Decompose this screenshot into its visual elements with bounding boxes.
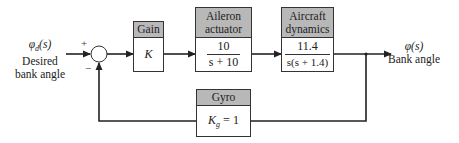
aileron-actuator-header: Aileron actuator — [196, 8, 251, 38]
aircraft-dynamics-body: 11.4 s(s + 1.4) — [282, 38, 333, 71]
gyro-value: Kg = 1 — [208, 113, 239, 129]
output-label: φ(s) Bank angle — [382, 40, 446, 66]
aileron-actuator-block: Aileron actuator 10 s + 10 — [195, 7, 252, 72]
aileron-actuator-body: 10 s + 10 — [196, 38, 251, 71]
aircraft-dynamics-block: Aircraft dynamics 11.4 s(s + 1.4) — [281, 7, 334, 72]
gyro-block-body: Kg = 1 — [197, 106, 250, 136]
gain-block: Gain K — [133, 21, 164, 72]
aileron-transfer-function: 10 s + 10 — [207, 40, 240, 69]
input-label-line2: bank angle — [4, 68, 76, 81]
gain-value: K — [144, 47, 152, 62]
input-label-line1: Desired — [4, 55, 76, 68]
summing-junction — [91, 46, 107, 62]
plus-sign: + — [81, 37, 87, 49]
minus-sign: − — [85, 62, 91, 74]
aircraft-dynamics-header: Aircraft dynamics — [282, 8, 333, 38]
gain-block-header: Gain — [134, 22, 163, 38]
input-label: φd(s) Desired bank angle — [4, 38, 76, 81]
block-diagram: φd(s) Desired bank angle + − Gain K Aile… — [0, 0, 459, 143]
gyro-block-header: Gyro — [197, 90, 250, 106]
output-label-line1: Bank angle — [382, 53, 446, 66]
aircraft-transfer-function: 11.4 s(s + 1.4) — [285, 40, 330, 69]
fraction-bar — [285, 54, 330, 55]
input-signal-symbol: φd(s) — [4, 38, 76, 55]
output-signal-symbol: φ(s) — [382, 40, 446, 53]
gyro-block: Gyro Kg = 1 — [196, 89, 251, 137]
gain-block-body: K — [134, 38, 163, 71]
